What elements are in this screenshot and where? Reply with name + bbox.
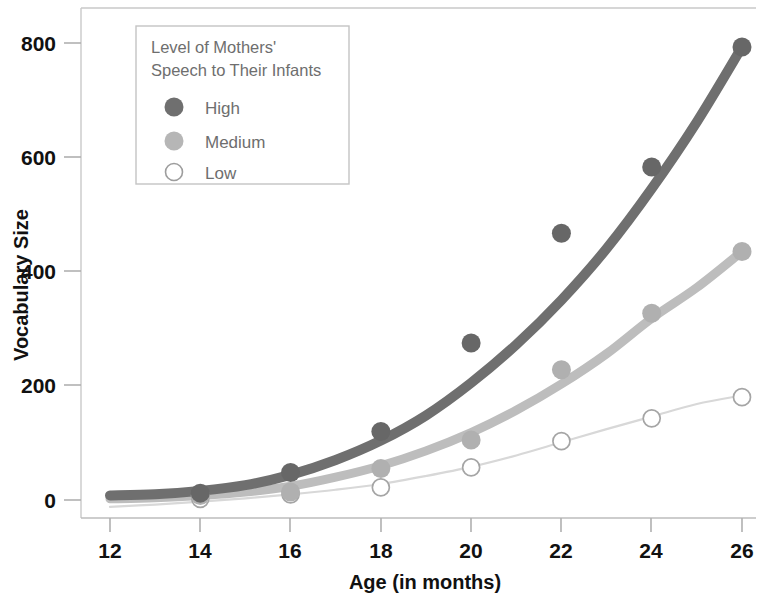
legend-title-line1: Level of Mothers'	[151, 38, 276, 56]
x-tick-label-26: 26	[730, 539, 753, 562]
data-point-low-18	[372, 479, 389, 496]
y-tick-label-0: 0	[44, 489, 56, 512]
data-point-high-22	[552, 224, 571, 243]
data-point-medium-18	[371, 459, 390, 478]
curve-medium	[110, 252, 742, 499]
data-point-low-26	[734, 389, 751, 406]
x-tick-label-14: 14	[188, 539, 212, 562]
x-tick-label-18: 18	[369, 539, 393, 562]
x-tick-label-20: 20	[459, 539, 482, 562]
x-tick-label-12: 12	[98, 539, 121, 562]
y-tick-label-200: 200	[21, 374, 56, 397]
y-axis-ticks	[64, 43, 81, 500]
data-point-medium-20	[462, 431, 481, 450]
data-point-high-18	[371, 422, 390, 441]
legend-marker-low-icon	[166, 164, 183, 181]
x-tick-label-24: 24	[639, 539, 663, 562]
legend-title-line2: Speech to Their Infants	[151, 61, 321, 79]
chart-figure: 800 600 400 200 0 12 14 16 18 20 22 24 2…	[0, 0, 757, 595]
data-point-low-20	[463, 459, 480, 476]
vocabulary-growth-chart: 800 600 400 200 0 12 14 16 18 20 22 24 2…	[0, 0, 757, 595]
data-point-high-24	[642, 157, 661, 176]
data-point-medium-16	[281, 483, 300, 502]
data-point-high-16	[281, 463, 300, 482]
y-axis-title: Vocabulary Size	[10, 209, 32, 361]
x-tick-label-16: 16	[278, 539, 301, 562]
data-point-low-24	[643, 410, 660, 427]
data-point-medium-26	[733, 242, 752, 261]
legend: Level of Mothers' Speech to Their Infant…	[136, 26, 349, 184]
legend-label-low: Low	[205, 164, 237, 183]
legend-label-high: High	[205, 99, 240, 118]
y-tick-label-600: 600	[21, 146, 56, 169]
data-point-high-14	[191, 484, 210, 503]
data-point-high-20	[462, 333, 481, 352]
x-axis-title: Age (in months)	[349, 571, 501, 593]
data-point-low-22	[553, 433, 570, 450]
plot-frame	[81, 8, 756, 518]
y-tick-label-800: 800	[21, 32, 56, 55]
legend-label-medium: Medium	[205, 133, 265, 152]
legend-marker-high-icon	[165, 98, 184, 117]
data-point-high-26	[733, 38, 752, 57]
data-point-medium-22	[552, 360, 571, 379]
legend-marker-medium-icon	[165, 132, 184, 151]
x-axis-ticks	[110, 518, 742, 532]
data-point-medium-24	[642, 304, 661, 323]
x-tick-label-22: 22	[549, 539, 572, 562]
